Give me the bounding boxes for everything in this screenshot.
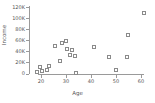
data-point bbox=[126, 33, 130, 37]
y-axis-tick-label: 100K bbox=[12, 16, 25, 21]
y-axis-tick bbox=[26, 40, 29, 41]
x-axis-title: Age bbox=[0, 90, 155, 96]
data-point bbox=[40, 69, 44, 73]
data-point bbox=[47, 64, 51, 68]
y-axis-tick-label: 120K bbox=[12, 5, 25, 10]
data-point bbox=[64, 39, 68, 43]
y-axis-tick-label: 80K bbox=[15, 27, 25, 32]
data-point bbox=[107, 55, 111, 59]
y-axis-tick-labels: 020K40K60K80K100K120K bbox=[0, 0, 25, 103]
y-axis-tick-label: 40K bbox=[15, 49, 25, 54]
y-axis-tick bbox=[26, 7, 29, 8]
data-point bbox=[35, 70, 39, 74]
data-point bbox=[58, 59, 62, 63]
data-point bbox=[68, 53, 72, 57]
plot-area bbox=[30, 4, 150, 73]
data-point bbox=[125, 55, 129, 59]
y-axis-tick bbox=[26, 74, 29, 75]
x-axis-tick-label: 30 bbox=[63, 79, 69, 84]
y-axis-tick-label: 0 bbox=[22, 71, 25, 76]
y-axis-line bbox=[29, 6, 30, 74]
x-axis-tick-label: 40 bbox=[88, 79, 94, 84]
data-point bbox=[45, 68, 49, 72]
y-axis-tick bbox=[26, 62, 29, 63]
x-axis-tick-label: 20 bbox=[38, 79, 44, 84]
data-point bbox=[70, 48, 74, 52]
y-axis-tick bbox=[26, 29, 29, 30]
data-point bbox=[114, 68, 118, 72]
y-axis-tick-label: 60K bbox=[15, 38, 25, 43]
scatter-chart: 020K40K60K80K100K120K 2030405060 Income … bbox=[0, 0, 155, 103]
x-axis-tick-label: 50 bbox=[113, 79, 119, 84]
data-point bbox=[142, 11, 146, 15]
y-axis-title: Income bbox=[1, 20, 7, 50]
y-axis-tick bbox=[26, 51, 29, 52]
data-point bbox=[92, 45, 96, 49]
data-point bbox=[65, 47, 69, 51]
y-axis-tick bbox=[26, 18, 29, 19]
data-point bbox=[73, 54, 77, 58]
data-point bbox=[53, 44, 57, 48]
y-axis-tick-label: 20K bbox=[15, 60, 25, 65]
x-axis-tick-label: 60 bbox=[138, 79, 144, 84]
data-point bbox=[74, 71, 78, 75]
